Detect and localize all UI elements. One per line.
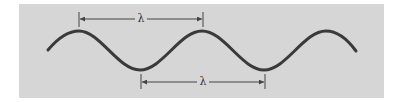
wavelength-label-bottom: λ — [198, 76, 209, 88]
wave-curve — [48, 31, 356, 70]
wavelength-label-top: λ — [136, 13, 147, 25]
